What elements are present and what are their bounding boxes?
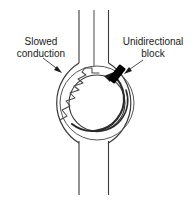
slowed-conduction-label-line2: conduction	[5, 48, 77, 60]
unidirectional-block-label: Unidirectional block	[114, 36, 192, 59]
distal-vessel	[79, 141, 109, 195]
slowed-conduction-jagged-line	[60, 68, 86, 120]
proximal-vessel	[79, 10, 109, 66]
ring-inner-circle	[69, 75, 125, 131]
unidirectional-block-label-line1: Unidirectional	[114, 36, 192, 48]
unidirectional-block-leader-arrowhead	[124, 67, 132, 74]
slowed-conduction-leader	[43, 58, 62, 73]
diagram-container: Slowed conduction Unidirectional block	[0, 0, 194, 202]
unidirectional-block-label-line2: block	[114, 48, 192, 60]
slowed-conduction-label-line1: Slowed	[5, 36, 77, 48]
reentry-circuit-diagram	[0, 0, 194, 202]
unidirectional-block-leader	[124, 60, 143, 74]
slowed-conduction-upper-step	[85, 68, 99, 73]
slowed-conduction-label: Slowed conduction	[5, 36, 77, 59]
